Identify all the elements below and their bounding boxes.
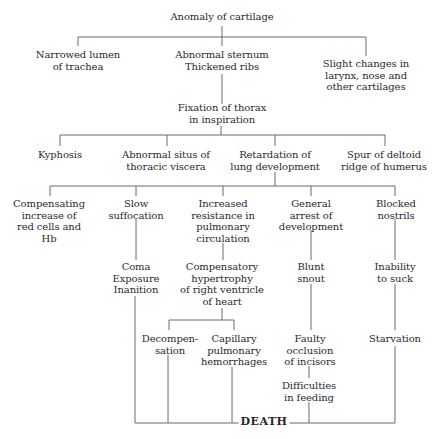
node-slow-suffocation: Slow suffocation	[108, 198, 163, 221]
node-text: Decompen-	[142, 333, 198, 345]
node-text: Capillary	[201, 333, 267, 345]
node-general-arrest: General arrest of development	[279, 198, 343, 233]
node-text: hypertrophy	[180, 273, 264, 285]
node-text: Inanition	[113, 284, 160, 296]
node-text: Compensating	[13, 198, 85, 210]
node-narrowed-lumen: Narrowed lumen of trachea	[36, 49, 120, 72]
node-compensating-increase: Compensating increase of red cells and H…	[13, 198, 85, 244]
node-text: Slow	[108, 198, 163, 210]
node-text: Hb	[13, 233, 85, 245]
node-death: DEATH	[239, 416, 290, 428]
node-text: Fixation of thorax	[178, 102, 267, 114]
node-text: snout	[297, 273, 325, 285]
node-retardation-of-lung: Retardation of lung development	[230, 149, 319, 172]
node-text: of right ventricle	[180, 284, 264, 296]
node-text: in feeding	[282, 392, 336, 404]
node-abnormal-situs: Abnormal situs of thoracic viscera	[122, 149, 210, 172]
node-increased-resistance: Increased resistance in pulmonary circul…	[191, 198, 255, 244]
node-fixation-of-thorax: Fixation of thorax in inspiration	[178, 102, 267, 125]
node-text: thoracic viscera	[122, 161, 210, 173]
node-text: to suck	[374, 273, 415, 285]
node-text: Coma	[113, 261, 160, 273]
node-text: larynx, nose and	[323, 70, 409, 82]
node-text: Faulty	[284, 333, 335, 345]
node-text: Increased	[191, 198, 255, 210]
node-text: Abnormal sternum	[175, 49, 268, 61]
node-text: ridge of humerus	[341, 161, 427, 173]
node-text: Kyphosis	[38, 149, 82, 161]
node-compensatory-hypertrophy: Compensatory hypertrophy of right ventri…	[180, 261, 264, 307]
node-text: Inability	[374, 261, 415, 273]
node-text: Exposure	[113, 273, 160, 285]
node-text: occlusion	[284, 345, 335, 357]
node-text: Anomaly of cartilage	[170, 11, 273, 23]
node-text: increase of	[13, 210, 85, 222]
node-text: pulmonary	[191, 221, 255, 233]
node-text: DEATH	[241, 416, 288, 428]
node-text: Compensatory	[180, 261, 264, 273]
node-text: Thickened ribs	[175, 61, 268, 73]
node-text: Blocked	[376, 198, 416, 210]
node-faulty-occlusion: Faulty occlusion of incisors	[284, 333, 335, 368]
node-text: circulation	[191, 233, 255, 245]
node-text: nostrils	[376, 210, 416, 222]
node-text: of incisors	[284, 356, 335, 368]
node-slight-changes: Slight changes in larynx, nose and other…	[323, 58, 409, 93]
node-text: Spur of deltoid	[341, 149, 427, 161]
node-text: Abnormal situs of	[122, 149, 210, 161]
node-text: of trachea	[36, 61, 120, 73]
node-anomaly-of-cartilage: Anomaly of cartilage	[170, 11, 273, 23]
node-text: Difficulties	[282, 380, 336, 392]
node-spur-of-deltoid: Spur of deltoid ridge of humerus	[341, 149, 427, 172]
node-coma-exposure-inanition: Coma Exposure Inanition	[113, 261, 160, 296]
node-text: red cells and	[13, 221, 85, 233]
node-text: Slight changes in	[323, 58, 409, 70]
node-capillary-hemorrhages: Capillary pulmonary hemorrhages	[201, 333, 267, 368]
node-decompensation: Decompen- sation	[142, 333, 198, 356]
node-text: General	[279, 198, 343, 210]
node-text: hemorrhages	[201, 356, 267, 368]
node-starvation: Starvation	[369, 333, 421, 345]
node-text: Narrowed lumen	[36, 49, 120, 61]
node-blocked-nostrils: Blocked nostrils	[376, 198, 416, 221]
node-text: Retardation of	[230, 149, 319, 161]
node-text: sation	[142, 345, 198, 357]
node-inability-to-suck: Inability to suck	[374, 261, 415, 284]
node-blunt-snout: Blunt snout	[297, 261, 325, 284]
node-text: of heart	[180, 296, 264, 308]
node-kyphosis: Kyphosis	[38, 149, 82, 161]
node-difficulties-in-feeding: Difficulties in feeding	[282, 380, 336, 403]
node-text: in inspiration	[178, 114, 267, 126]
node-text: development	[279, 221, 343, 233]
node-abnormal-sternum: Abnormal sternum Thickened ribs	[175, 49, 268, 72]
node-text: lung development	[230, 161, 319, 173]
node-text: arrest of	[279, 210, 343, 222]
node-text: other cartilages	[323, 81, 409, 93]
node-text: pulmonary	[201, 345, 267, 357]
node-text: resistance in	[191, 210, 255, 222]
node-text: suffocation	[108, 210, 163, 222]
node-text: Starvation	[369, 333, 421, 345]
node-text: Blunt	[297, 261, 325, 273]
